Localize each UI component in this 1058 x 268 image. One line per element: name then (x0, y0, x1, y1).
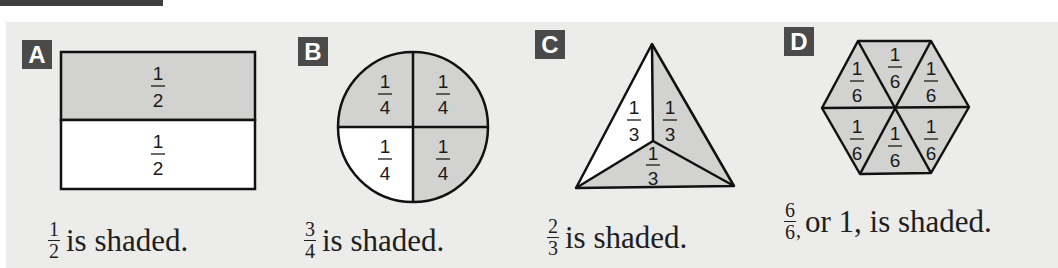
caption-d-comma: , (796, 219, 801, 242)
svg-text:6: 6 (890, 71, 901, 92)
svg-text:1: 1 (926, 116, 937, 137)
svg-text:3: 3 (648, 168, 659, 189)
svg-text:2: 2 (153, 90, 164, 111)
svg-text:4: 4 (380, 97, 391, 118)
svg-text:1: 1 (665, 97, 676, 118)
svg-text:1: 1 (890, 123, 901, 144)
svg-text:3: 3 (665, 124, 676, 145)
svg-text:4: 4 (438, 97, 449, 118)
svg-text:1: 1 (153, 131, 164, 152)
svg-text:4: 4 (380, 163, 391, 184)
svg-text:1: 1 (890, 44, 901, 65)
svg-text:1: 1 (438, 136, 449, 157)
caption-c-text: is shaded. (565, 220, 687, 256)
caption-a-text: is shaded. (66, 223, 188, 259)
caption-c-fraction: 2 3 (547, 217, 559, 258)
svg-text:6: 6 (926, 85, 937, 106)
svg-text:1: 1 (629, 97, 640, 118)
svg-text:6: 6 (926, 143, 937, 164)
svg-text:1: 1 (153, 63, 164, 84)
caption-d-text: or 1, is shaded. (805, 204, 992, 240)
caption-a-fraction: 1 2 (48, 220, 60, 261)
svg-text:1: 1 (380, 136, 391, 157)
part-labels: 1 2 1 2 1 4 1 4 1 4 1 4 (151, 44, 938, 189)
svg-text:1: 1 (926, 58, 937, 79)
figure-c-triangle (576, 44, 734, 188)
svg-text:1: 1 (852, 58, 863, 79)
svg-text:4: 4 (438, 163, 449, 184)
svg-text:1: 1 (648, 143, 659, 164)
svg-text:1: 1 (438, 71, 449, 92)
figure-b-circle (338, 52, 488, 202)
caption-b-fraction: 3 4 (304, 220, 316, 261)
svg-text:6: 6 (890, 150, 901, 171)
caption-b: 3 4 is shaded. (304, 220, 444, 261)
svg-text:1: 1 (380, 71, 391, 92)
label-b-top-left: 1 4 (378, 71, 392, 118)
caption-c: 2 3 is shaded. (547, 217, 687, 258)
svg-text:3: 3 (629, 124, 640, 145)
svg-text:2: 2 (153, 158, 164, 179)
caption-d: 6 6 , or 1, is shaded. (784, 201, 992, 242)
caption-a: 1 2 is shaded. (48, 220, 188, 261)
svg-text:1: 1 (852, 116, 863, 137)
label-b-top-right: 1 4 (436, 71, 450, 118)
svg-text:6: 6 (852, 143, 863, 164)
svg-text:6: 6 (852, 85, 863, 106)
caption-b-text: is shaded. (322, 223, 444, 259)
caption-d-fraction: 6 6 (784, 201, 796, 242)
